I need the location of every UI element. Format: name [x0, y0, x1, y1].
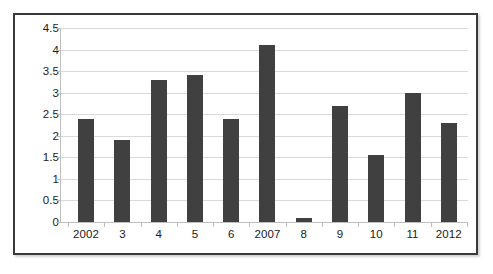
y-axis-tick	[56, 179, 60, 180]
chart-plot-wrapper: 00.511.522.533.544.5 2002345620078910112…	[15, 15, 476, 253]
y-axis-tick	[56, 71, 60, 72]
bar	[114, 140, 130, 222]
x-axis-tick	[213, 222, 214, 227]
x-axis-tick	[249, 222, 250, 227]
bar-series	[60, 28, 468, 222]
y-axis-tick	[56, 114, 60, 115]
x-axis-tick	[322, 222, 323, 227]
y-axis-tick	[56, 157, 60, 158]
plot-area	[60, 28, 468, 222]
y-axis-tick	[56, 50, 60, 51]
bar	[78, 119, 94, 222]
x-tick-label: 5	[192, 228, 199, 240]
x-axis-tick	[68, 222, 69, 227]
x-tick-label: 9	[337, 228, 344, 240]
x-tick-label: 3	[119, 228, 126, 240]
x-axis-tick	[286, 222, 287, 227]
y-axis-tick	[56, 200, 60, 201]
x-axis-ticks	[60, 222, 468, 227]
x-tick-label: 2002	[73, 228, 99, 240]
x-axis-tick	[104, 222, 105, 227]
x-axis-tick	[431, 222, 432, 227]
bar	[151, 80, 167, 222]
x-tick-label: 4	[155, 228, 162, 240]
x-tick-label: 2012	[436, 228, 462, 240]
bar	[332, 106, 348, 222]
x-axis-tick	[467, 222, 468, 227]
x-tick-label: 2007	[254, 228, 280, 240]
x-tick-label: 11	[406, 228, 418, 240]
bar	[223, 119, 239, 222]
x-tick-label: 6	[228, 228, 235, 240]
bar	[405, 93, 421, 222]
x-axis-tick	[358, 222, 359, 227]
x-axis-labels: 2002345620078910112012	[60, 228, 468, 248]
x-axis-tick	[177, 222, 178, 227]
bar	[259, 45, 275, 222]
y-axis-tick	[56, 93, 60, 94]
bar	[368, 155, 384, 222]
chart-figure: 00.511.522.533.544.5 2002345620078910112…	[13, 13, 478, 255]
y-axis-tick	[56, 136, 60, 137]
bar	[441, 123, 457, 222]
bar	[187, 75, 203, 222]
y-axis-tick	[56, 28, 60, 29]
x-axis-tick	[394, 222, 395, 227]
y-axis-labels: 00.511.522.533.544.5	[17, 28, 59, 222]
x-tick-label: 10	[370, 228, 383, 240]
x-tick-label: 8	[300, 228, 307, 240]
x-axis-tick	[141, 222, 142, 227]
